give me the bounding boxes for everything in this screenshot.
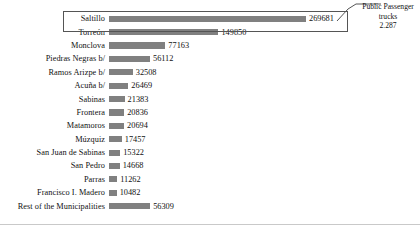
category-label: Monclova [0, 41, 109, 50]
annotation-line-1: Public Passenger [357, 2, 419, 12]
bar-zone: 17457 [109, 133, 420, 146]
bar-chart: Saltillo269681Torreón149850Monclova77163… [0, 0, 420, 234]
bar-zone: 15322 [109, 146, 420, 159]
bar-zone: 20694 [109, 119, 420, 132]
bar [109, 190, 117, 196]
bar-zone: 26469 [109, 79, 420, 92]
category-label: Matamoros [0, 121, 109, 130]
bar-row: Sabinas21383 [0, 92, 420, 105]
bar-zone: 14668 [109, 159, 420, 172]
value-label: 77163 [168, 41, 189, 50]
bar-zone: 32508 [109, 66, 420, 79]
bar-row: Ramos Arizpe b/32508 [0, 66, 420, 79]
value-label: 21383 [128, 95, 149, 104]
bar-zone: 77163 [109, 39, 420, 52]
category-label: Múzquiz [0, 135, 109, 144]
category-label: Frontera [0, 108, 109, 117]
category-label: Sabinas [0, 95, 109, 104]
value-label: 10482 [120, 188, 141, 197]
category-label: San Pedro [0, 161, 109, 170]
bar [109, 150, 120, 156]
bar-row: San Juan de Sabinas15322 [0, 146, 420, 159]
value-label: 20694 [127, 121, 148, 130]
bar-zone: 20836 [109, 106, 420, 119]
value-label: 17457 [125, 135, 146, 144]
category-label: Torreón [0, 28, 109, 37]
bar [109, 176, 117, 182]
bar-zone: 56309 [109, 199, 420, 212]
value-label: 56309 [153, 202, 174, 211]
value-label: 26469 [131, 81, 152, 90]
category-label: Piedras Negras b/ [0, 54, 109, 63]
bar [109, 83, 128, 89]
value-label: 56112 [153, 54, 173, 63]
category-label: Rest of the Municipalities [0, 202, 109, 211]
bar [109, 109, 124, 115]
value-label: 149850 [221, 28, 246, 37]
bar [109, 123, 124, 129]
category-label: Francisco I. Madero [0, 188, 109, 197]
bar [109, 136, 122, 142]
value-label: 32508 [136, 68, 157, 77]
bar-row: Parras11262 [0, 173, 420, 186]
value-label: 14668 [123, 161, 144, 170]
bar-row: Francisco I. Madero10482 [0, 186, 420, 199]
category-label: Acuña b/ [0, 81, 109, 90]
callout-annotation: Public Passenger trucks 2.287 [357, 2, 419, 31]
value-label: 11262 [120, 175, 140, 184]
category-label: Parras [0, 175, 109, 184]
bar-row: Monclova77163 [0, 39, 420, 52]
value-label: 269681 [309, 14, 334, 23]
bar-row: Piedras Negras b/56112 [0, 52, 420, 65]
category-label: San Juan de Sabinas [0, 148, 109, 157]
value-label: 15322 [123, 148, 144, 157]
bar-row: Múzquiz17457 [0, 133, 420, 146]
annotation-line-2: trucks [357, 12, 419, 22]
category-label: Saltillo [0, 14, 109, 23]
category-label: Ramos Arizpe b/ [0, 68, 109, 77]
bar-zone: 10482 [109, 186, 420, 199]
bar-row: San Pedro14668 [0, 159, 420, 172]
bar-zone: 56112 [109, 52, 420, 65]
bar [109, 56, 150, 62]
bar-row: Acuña b/26469 [0, 79, 420, 92]
bar [109, 69, 133, 75]
bar-row: Rest of the Municipalities56309 [0, 199, 420, 212]
bar [109, 42, 165, 48]
bar [109, 29, 218, 35]
bar [109, 16, 306, 22]
bar-zone: 11262 [109, 173, 420, 186]
bottom-axis-rule [0, 224, 420, 225]
plot-area: Saltillo269681Torreón149850Monclova77163… [0, 12, 420, 213]
bar [109, 96, 125, 102]
bar-zone: 21383 [109, 92, 420, 105]
annotation-line-3: 2.287 [357, 21, 419, 31]
value-label: 20836 [127, 108, 148, 117]
bar-row: Matamoros20694 [0, 119, 420, 132]
bar [109, 203, 150, 209]
bar-row: Frontera20836 [0, 106, 420, 119]
bar [109, 163, 120, 169]
